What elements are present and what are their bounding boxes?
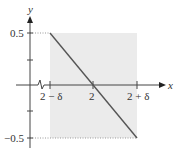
y-axis-label: y — [27, 3, 33, 15]
axis-break-icon — [38, 80, 44, 89]
y-tick-label-bottom: −0.5 — [4, 132, 24, 144]
chart-figure: y 0.5 −0.5 x 2 − δ 2 2 + δ — [0, 0, 176, 157]
x-tick-label-right: 2 + δ — [127, 90, 149, 102]
y-axis-arrow-icon — [27, 16, 33, 23]
y-tick-label-top: 0.5 — [10, 27, 24, 39]
x-axis-label: x — [167, 79, 173, 91]
chart-svg: y 0.5 −0.5 x 2 − δ 2 2 + δ — [0, 0, 176, 157]
x-tick-label-mid: 2 — [89, 90, 95, 102]
x-tick-label-left: 2 − δ — [40, 90, 62, 102]
x-axis-arrow-icon — [159, 82, 166, 88]
